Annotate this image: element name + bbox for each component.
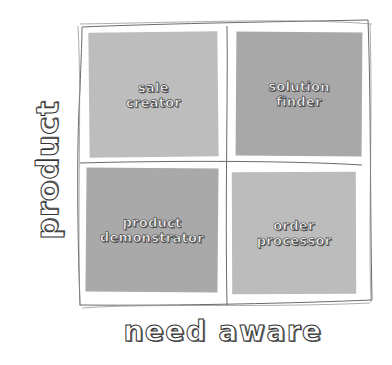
quadrant-product-demonstrator: product demonstrator: [85, 167, 218, 292]
quadrant-label: order processor: [257, 218, 332, 248]
quadrant-label: solution finder: [268, 79, 330, 109]
horizontal-divider: [80, 161, 362, 165]
vertical-divider: [226, 26, 227, 305]
quadrant-label: sale creator: [126, 79, 182, 110]
y-axis-label: product: [30, 101, 65, 240]
quadrant-label: product demonstrator: [100, 215, 204, 246]
x-axis-label: need aware: [123, 315, 322, 348]
quadrant-order-processor: order processor: [232, 172, 356, 294]
quadrant-solution-finder: solution finder: [236, 32, 363, 157]
quadrant-sale-creator: sale creator: [88, 31, 218, 157]
